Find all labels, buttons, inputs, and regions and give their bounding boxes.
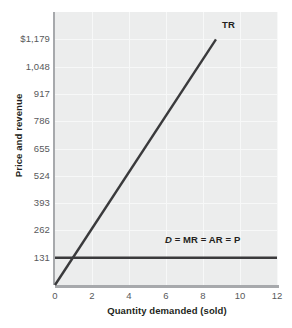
y-axis-tick-label: $1,179 — [2, 34, 50, 44]
x-axis-tick-label: 8 — [191, 290, 215, 301]
y-axis-tick-label: 393 — [2, 198, 50, 208]
y-axis-tick-label: 655 — [2, 144, 50, 154]
chart-figure: 1312623935246557869171,048$1,179 Price a… — [0, 0, 292, 328]
x-axis-tick-label: 0 — [43, 290, 67, 301]
y-axis-tick-label: 524 — [2, 171, 50, 181]
demand-equation-rest: = MR = AR = P — [172, 234, 240, 245]
y-axis-tick-label: 131 — [2, 253, 50, 263]
demand-symbol: D — [165, 234, 172, 245]
total-revenue-label: TR — [222, 19, 235, 30]
x-axis-tick-label: 4 — [117, 290, 141, 301]
y-axis-tick-label: 786 — [2, 116, 50, 126]
y-axis-tick-label: 917 — [2, 89, 50, 99]
y-axis-tick-labels: 1312623935246557869171,048$1,179 — [0, 0, 50, 328]
x-axis-tick-label: 2 — [80, 290, 104, 301]
series-line — [55, 39, 216, 285]
y-axis-tick-label: 1,048 — [2, 62, 50, 72]
demand-curve-label: D = MR = AR = P — [165, 234, 240, 245]
x-axis-tick-label: 12 — [265, 290, 289, 301]
x-axis-tick-label: 10 — [228, 290, 252, 301]
y-axis-title: Price and revenue — [13, 56, 24, 216]
x-axis-tick-label: 6 — [154, 290, 178, 301]
y-axis-tick-label: 262 — [2, 225, 50, 235]
x-axis-title: Quantity demanded (sold) — [55, 305, 279, 316]
